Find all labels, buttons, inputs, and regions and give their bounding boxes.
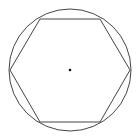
diagram-canvas xyxy=(0,0,136,138)
center-point xyxy=(69,69,72,72)
